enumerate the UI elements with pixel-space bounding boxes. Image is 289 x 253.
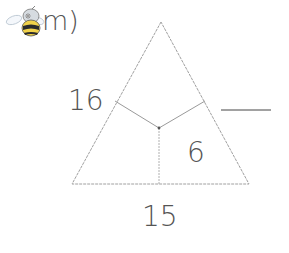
center-point: [158, 127, 161, 130]
divider-right: [159, 101, 205, 128]
divider-left: [115, 101, 159, 128]
region-value-bottom-right: 6: [187, 136, 205, 169]
region-value-left-top: 16: [68, 84, 104, 117]
region-value-bottom: 15: [142, 200, 178, 233]
